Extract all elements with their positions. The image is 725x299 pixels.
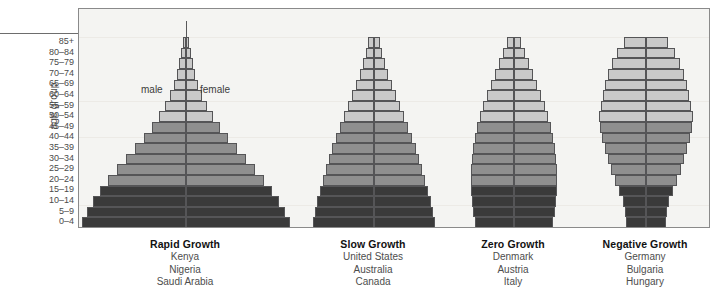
bar-male xyxy=(625,207,646,218)
bar-male xyxy=(612,58,646,69)
age-tick-label: 30–34 xyxy=(49,154,74,163)
caption-block: Slow GrowthUnited StatesAustraliaCanada xyxy=(293,238,453,289)
bar-male xyxy=(619,186,646,197)
bar-female xyxy=(646,133,690,144)
bar-female xyxy=(646,69,684,80)
pyramid-bar-row xyxy=(619,186,673,197)
pyramid-bar-row xyxy=(611,164,681,175)
pyramid-bar-row xyxy=(603,90,689,101)
bar-female xyxy=(646,207,667,218)
age-tick-label: 70–74 xyxy=(49,69,74,78)
age-tick-label: 25–29 xyxy=(49,164,74,173)
age-tick-label: 50–54 xyxy=(49,111,74,120)
bar-female xyxy=(646,143,687,154)
bar-male xyxy=(599,111,646,122)
bar-female xyxy=(646,48,675,59)
pyramid-bar-row xyxy=(624,37,668,48)
bar-female xyxy=(646,186,673,197)
caption-block: Negative GrowthGermanyBulgariaHungary xyxy=(565,238,725,289)
bar-female xyxy=(646,196,669,207)
caption-title: Slow Growth xyxy=(293,238,453,251)
caption-country: Saudi Arabia xyxy=(105,276,265,289)
bar-male xyxy=(600,122,646,133)
bar-female xyxy=(646,80,687,91)
bar-female xyxy=(646,101,691,112)
bar-female xyxy=(646,37,668,48)
pyramid-bar-row xyxy=(600,122,692,133)
bar-female xyxy=(646,217,666,227)
bar-female xyxy=(646,90,689,101)
age-tick-label: 60–64 xyxy=(49,90,74,99)
plot-area: male female xyxy=(78,8,710,228)
bar-male xyxy=(617,48,646,59)
pyramid-negative-growth xyxy=(79,9,709,227)
population-pyramid-figure: age group 85+80–8475–7970–7465–6960–6455… xyxy=(0,0,725,299)
bar-male xyxy=(602,133,646,144)
legend-label-female: female xyxy=(200,84,230,95)
bar-male xyxy=(608,154,646,165)
age-tick-label: 0–4 xyxy=(59,217,74,226)
age-group-tick-labels: 85+80–8475–7970–7465–6960–6455–5950–5445… xyxy=(30,38,74,228)
age-tick-label: 40–44 xyxy=(49,132,74,141)
bar-male xyxy=(624,37,646,48)
caption-country: Germany xyxy=(565,251,725,264)
pyramid-bar-row xyxy=(612,58,680,69)
plot-inner: male female xyxy=(79,9,709,227)
bar-male xyxy=(603,90,646,101)
pyramid-bar-row xyxy=(605,143,687,154)
caption-country: Australia xyxy=(293,264,453,277)
caption-country: Kenya xyxy=(105,251,265,264)
bar-male xyxy=(608,69,646,80)
age-tick-label: 85+ xyxy=(59,37,74,46)
pyramid-bar-row xyxy=(626,217,666,227)
pyramid-bar-row xyxy=(602,133,690,144)
bar-female xyxy=(646,122,692,133)
pyramid-bar-row xyxy=(605,80,687,91)
caption-country: Hungary xyxy=(565,276,725,289)
left-horizontal-rule xyxy=(0,33,79,34)
legend-label-male: male xyxy=(141,84,163,95)
pyramid-bar-row xyxy=(623,196,669,207)
pyramid-bar-row xyxy=(615,175,677,186)
bar-male xyxy=(626,217,646,227)
age-tick-label: 20–24 xyxy=(49,175,74,184)
age-tick-label: 80–84 xyxy=(49,48,74,57)
bar-male xyxy=(623,196,646,207)
caption-country: Bulgaria xyxy=(565,264,725,277)
age-tick-label: 10–14 xyxy=(49,196,74,205)
bar-female xyxy=(646,154,684,165)
caption-title: Negative Growth xyxy=(565,238,725,251)
caption-title: Rapid Growth xyxy=(105,238,265,251)
age-tick-label: 15–19 xyxy=(49,185,74,194)
pyramid-bar-row xyxy=(617,48,675,59)
bar-female xyxy=(646,175,677,186)
pyramid-bar-row xyxy=(601,101,691,112)
age-tick-label: 65–69 xyxy=(49,79,74,88)
caption-country: Nigeria xyxy=(105,264,265,277)
caption-block: Rapid GrowthKenyaNigeriaSaudi Arabia xyxy=(105,238,265,289)
age-tick-label: 55–59 xyxy=(49,101,74,110)
age-tick-label: 5–9 xyxy=(59,207,74,216)
pyramid-bar-row xyxy=(608,69,684,80)
age-tick-label: 35–39 xyxy=(49,143,74,152)
age-tick-label: 75–79 xyxy=(49,58,74,67)
bar-male xyxy=(611,164,646,175)
pyramid-bar-row xyxy=(625,207,667,218)
bar-male xyxy=(615,175,646,186)
bar-female xyxy=(646,58,680,69)
bar-male xyxy=(605,143,646,154)
age-tick-label: 45–49 xyxy=(49,122,74,131)
pyramid-bar-row xyxy=(599,111,693,122)
bar-male xyxy=(605,80,646,91)
pyramid-bar-row xyxy=(608,154,684,165)
bar-male xyxy=(601,101,646,112)
bar-female xyxy=(646,111,693,122)
caption-country: United States xyxy=(293,251,453,264)
caption-country: Canada xyxy=(293,276,453,289)
bar-female xyxy=(646,164,681,175)
